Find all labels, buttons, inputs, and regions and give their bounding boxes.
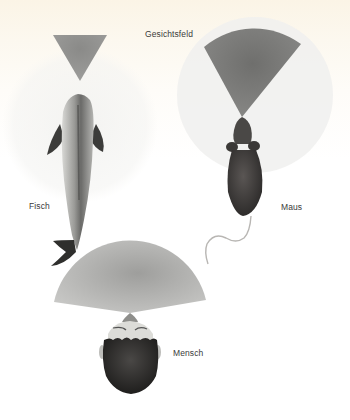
figure-title: Gesichtsfeld (145, 29, 193, 39)
human-field-of-view (54, 241, 206, 313)
human-head-drawing (99, 313, 161, 394)
label-maus: Maus (281, 202, 302, 212)
label-fisch: Fisch (29, 201, 50, 211)
label-mensch: Mensch (173, 348, 203, 358)
